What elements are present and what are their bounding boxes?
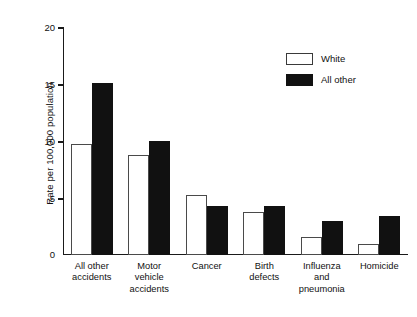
bar-chart: Rate per 100,000 population 20 15 10 5 0… — [0, 0, 417, 317]
bar-white — [71, 144, 92, 255]
legend-label-white: White — [321, 53, 345, 64]
legend: White All other — [286, 50, 396, 92]
bar-group — [121, 27, 179, 255]
bar-group — [178, 27, 236, 255]
x-axis-label: Cancer — [178, 261, 236, 272]
x-axis-labels: All otheraccidentsMotorvehicleaccidentsC… — [63, 261, 408, 315]
bar-all-other — [264, 206, 285, 255]
bar-all-other — [207, 206, 228, 255]
legend-label-all-other: All other — [321, 74, 356, 85]
x-axis-label-line: All other — [63, 261, 121, 272]
x-axis-label-line: Influenza — [293, 261, 351, 272]
bar-white — [128, 155, 149, 255]
bar-white — [186, 195, 207, 255]
y-tick-label-10: 10 — [44, 135, 55, 148]
x-axis-label-line: Birth — [236, 261, 294, 272]
y-tick-label-0: 0 — [50, 248, 55, 261]
x-axis-label-line: accidents — [121, 284, 179, 295]
x-axis-label-line: vehicle — [121, 272, 179, 283]
x-axis-label-line: Cancer — [178, 261, 236, 272]
bar-all-other — [92, 83, 113, 255]
bar-all-other — [379, 216, 400, 255]
legend-item-white: White — [286, 50, 396, 67]
y-tick-label-15: 15 — [44, 78, 55, 91]
white-swatch-icon — [286, 53, 313, 65]
x-axis-label-line: accidents — [63, 272, 121, 283]
x-axis-label-line: pneumonia — [293, 284, 351, 295]
x-axis-label: Homicide — [351, 261, 409, 272]
y-tick-label-5: 5 — [50, 192, 55, 205]
bar-group — [63, 27, 121, 255]
black-swatch-icon — [286, 74, 313, 86]
bar-white — [301, 237, 322, 255]
x-axis-label: Birthdefects — [236, 261, 294, 284]
y-tick-label-20: 20 — [44, 21, 55, 34]
x-axis-label: Influenzaandpneumonia — [293, 261, 351, 295]
x-axis-label-line: defects — [236, 272, 294, 283]
x-axis-label: All otheraccidents — [63, 261, 121, 284]
bar-all-other — [149, 141, 170, 255]
bar-white — [358, 244, 379, 255]
bar-white — [243, 212, 264, 255]
x-axis-label-line: Homicide — [351, 261, 409, 272]
x-axis-label-line: Motor — [121, 261, 179, 272]
x-axis-label: Motorvehicleaccidents — [121, 261, 179, 295]
bar-all-other — [322, 221, 343, 255]
x-axis-label-line: and — [293, 272, 351, 283]
legend-item-all-other: All other — [286, 71, 396, 88]
bar-group — [236, 27, 294, 255]
